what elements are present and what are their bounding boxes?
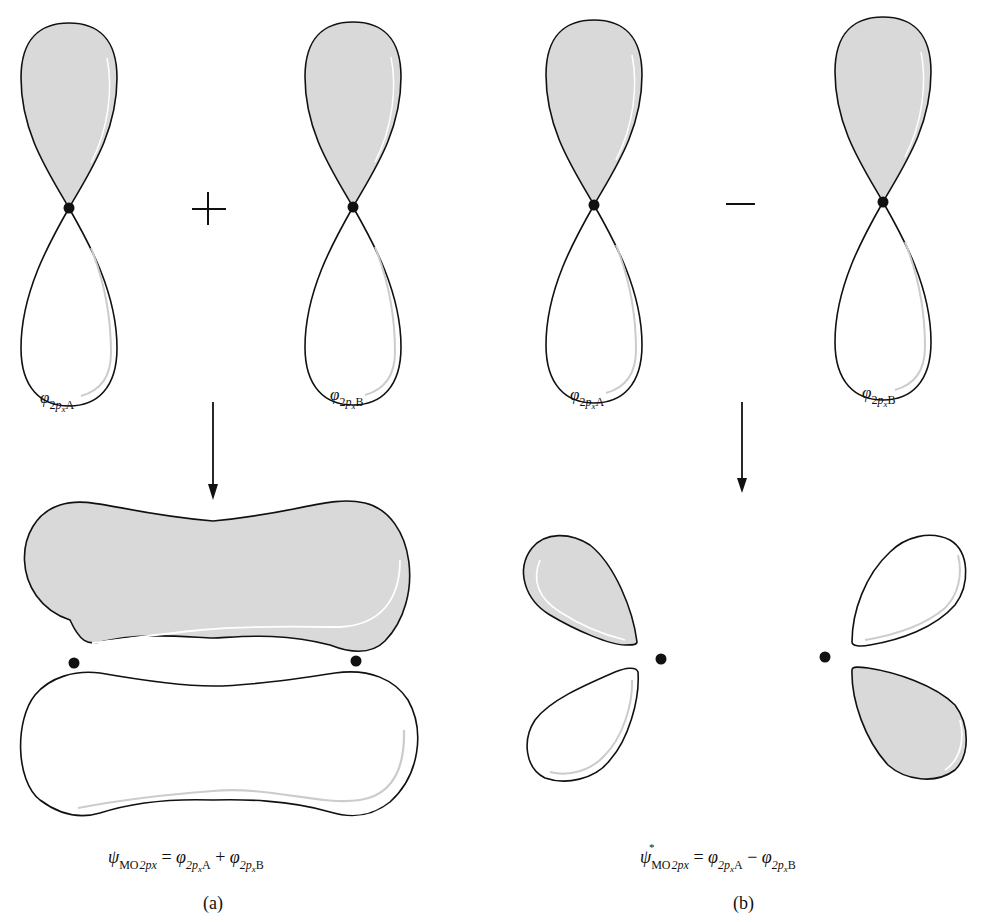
nucleus-dot-B <box>351 656 362 667</box>
negative-lobe <box>21 208 117 406</box>
label-phi-2px-B-left: φ2pxB <box>330 385 363 405</box>
nucleus-dot <box>589 200 600 211</box>
bonding-mo-lower-lobe <box>21 672 418 816</box>
negative-lobe <box>305 207 401 405</box>
nucleus-dot <box>348 202 359 213</box>
positive-lobe <box>835 17 931 202</box>
positive-lobe <box>546 20 642 205</box>
orbital-2px-A-left <box>21 23 117 406</box>
nucleus-dot-A <box>69 658 80 669</box>
orbital-2px-A-right <box>546 20 642 403</box>
caption-a: (a) <box>203 893 223 914</box>
negative-lobe <box>835 202 931 400</box>
antibonding-lobe-upper-left <box>524 536 637 645</box>
positive-lobe <box>21 23 117 208</box>
caption-b: (b) <box>733 893 754 914</box>
orbital-2px-B-left <box>305 22 401 405</box>
antibonding-lobe-lower-right <box>852 667 966 779</box>
label-phi-2px-A-right: φ2pxA <box>570 385 604 405</box>
antibonding-lobe-lower-left <box>527 668 638 781</box>
positive-lobe <box>305 22 401 207</box>
arrow-down-icon <box>208 402 218 500</box>
orbital-2px-B-right <box>835 17 931 400</box>
label-phi-2px-A-left: φ2pxA <box>40 388 74 408</box>
nucleus-dot <box>878 197 889 208</box>
mo-diagram <box>0 0 981 922</box>
equation-antibonding: ψ*MO 2px = φ2pxA − φ2pxB <box>640 847 796 868</box>
nucleus-dot-A <box>656 654 667 665</box>
label-phi-2px-B-right: φ2pxB <box>862 383 895 403</box>
nucleus-dot <box>64 203 75 214</box>
plus-operator <box>192 192 226 225</box>
arrow-down-icon <box>737 402 747 493</box>
negative-lobe <box>546 205 642 403</box>
equation-bonding: ψMO 2px = φ2pxA + φ2pxB <box>108 847 264 868</box>
bonding-mo <box>21 501 418 816</box>
nucleus-dot-B <box>820 652 831 663</box>
antibonding-mo <box>524 535 967 781</box>
